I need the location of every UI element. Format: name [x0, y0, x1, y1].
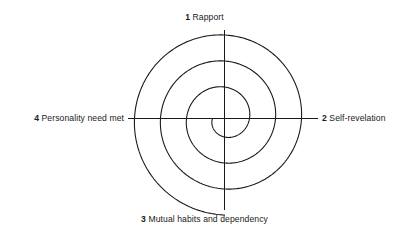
label-mutual-habits-number: 3: [141, 214, 146, 224]
label-rapport-text: Rapport: [193, 12, 224, 22]
label-mutual-habits-and-dependency: 3 Mutual habits and dependency: [0, 214, 409, 225]
label-mutual-habits-text: Mutual habits and dependency: [148, 214, 267, 224]
spiral-diagram: 1 Rapport 2 Self-revelation 4 Personalit…: [0, 0, 409, 234]
label-rapport-number: 1: [185, 12, 190, 22]
label-self-revelation-text: Self-revelation: [329, 113, 385, 123]
label-self-revelation-number: 2: [322, 113, 327, 123]
label-personality-need-met-text: Personality need met: [42, 113, 124, 123]
label-personality-need-met-number: 4: [34, 113, 39, 123]
spiral-curve: [134, 35, 301, 215]
label-self-revelation: 2 Self-revelation: [322, 113, 386, 124]
label-rapport: 1 Rapport: [0, 12, 409, 23]
label-personality-need-met: 4 Personality need met: [0, 113, 124, 124]
